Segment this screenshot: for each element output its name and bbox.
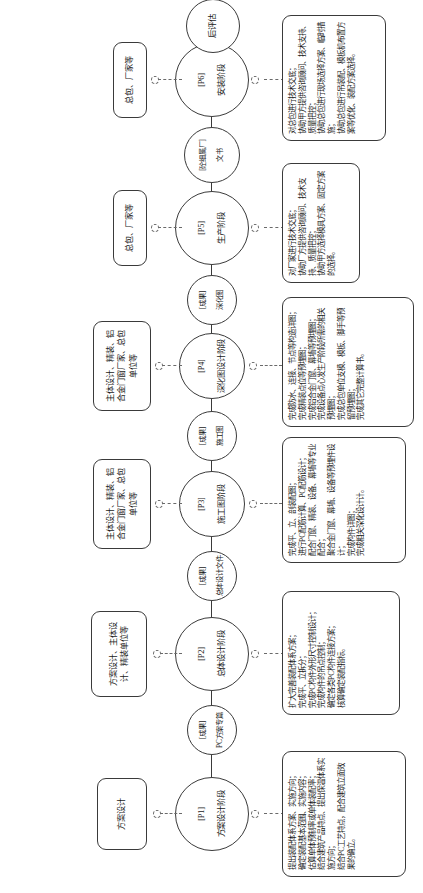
- lead-p4-tasks: [260, 365, 282, 366]
- phase-node-p5[interactable]: [P5] 生产阶段: [175, 191, 249, 265]
- task-item: 确定各类PC构件连接方案；: [327, 598, 337, 708]
- participants-text-p1: 方案设计: [116, 798, 127, 830]
- task-item: 结合建筑产品特点、提出保温体系实施方向；: [317, 758, 337, 870]
- task-item: 协助总包进行吊装配、模板机布置方案等优化、装配方案选择。: [337, 22, 357, 134]
- task-item: 协助总包进行现场选择方案、临时措施；: [317, 22, 337, 134]
- diagram-stage: [P1] 方案设计阶段 [成果] PC方案专篇 方案设计 提出装配体系方案、实施…: [0, 0, 423, 893]
- deliverable-tag-p3: [成果]: [199, 426, 208, 446]
- task-item: 聚合金门窗、幕墙、设备等预埋件设计；: [327, 444, 347, 556]
- task-item: 核算确定装配指标。: [337, 598, 347, 708]
- deliverable-node-p5[interactable]: [砼细属厂] 文书: [184, 127, 240, 183]
- lead-p6-tasks: [264, 79, 284, 80]
- lead-p3-participants: [162, 503, 182, 504]
- participants-text-p2: 方案设计、主体设计、精装单位等: [108, 617, 130, 691]
- deliverable-node-p1[interactable]: [成果] PC方案专篇: [187, 705, 237, 755]
- task-item: 扩大完善装配体系方案；: [288, 598, 298, 708]
- lead-p4-participants: [162, 365, 182, 366]
- connector-d2-p3: [211, 537, 212, 551]
- deliverable-name-p2: 总体设计文件: [216, 556, 225, 597]
- lead-dot-p2-top: [153, 650, 161, 658]
- tasks-box-p4: 完成防水、连接、节点等构造详图； 完成精装点位等预埋图； 完成铝合金门窗、幕墙等…: [282, 297, 414, 427]
- connector-d5-p6: [211, 117, 212, 127]
- deliverable-node-p2[interactable]: [成果] 总体设计文件: [187, 551, 237, 601]
- task-item: 完成平、立拆分；: [298, 598, 308, 708]
- task-item: 提出装配体系方案、实施方向；: [288, 758, 298, 870]
- task-item: 完成设备点心发生产阶段所需的相关预埋图；: [317, 304, 337, 420]
- lead-p2-tasks: [264, 653, 284, 654]
- tasks-box-p3: 完成平、立、剖装配图； 进行PC配筋计算、PC配筋设计； 配合门窗、精装、设备、…: [282, 437, 406, 563]
- lead-dot-p5-bottom: [251, 224, 259, 232]
- lead-p2-participants: [160, 653, 182, 654]
- participants-box-p5: 总包、厂家等: [113, 190, 147, 266]
- tasks-box-p2: 扩大完善装配体系方案； 完成平、立拆分； 完成PC构件外形尺寸控制设计； 完成构…: [282, 591, 400, 715]
- connector-p1-p2: [211, 755, 212, 777]
- participants-box-p3: 主体设计、精装、铝合金门窗厂家、总包单位等: [93, 459, 151, 549]
- deliverable-tag-p2: [成果]: [199, 556, 208, 597]
- lead-p1-participants: [160, 813, 182, 814]
- phase-name-p5: 生产阶段: [217, 212, 227, 243]
- task-item: 估算单体预制率或单体装配率；: [308, 758, 318, 870]
- task-item: 完成总包单位支模、模板、脚手等预留预埋图；: [337, 304, 357, 420]
- phase-node-p6[interactable]: [P6] 安装阶段: [175, 43, 249, 117]
- participants-text-p5: 总包、厂家等: [124, 204, 135, 252]
- phase-code-p1: [P1]: [197, 791, 207, 838]
- deliverable-tag-p4: [成果]: [199, 290, 208, 310]
- phase-code-p4: [P4]: [197, 339, 207, 394]
- lead-dot-p3-top: [155, 500, 163, 508]
- task-item: 完成平、立、剖装配图；: [288, 444, 298, 556]
- lead-p3-tasks: [260, 503, 282, 504]
- task-item: 完成PC构件外形尺寸控制设计；: [308, 598, 318, 708]
- task-item: 完成相关深化设计计。: [356, 444, 366, 556]
- task-item: 完成防水、连接、节点等构造详图；: [288, 304, 298, 420]
- lead-dot-p4-top: [155, 362, 163, 370]
- phase-node-p3[interactable]: [P3] 施工图阶段: [179, 471, 245, 537]
- task-item: 完成其它完整计算书。: [356, 304, 366, 420]
- participants-box-p2: 方案设计、主体设计、精装单位等: [91, 611, 147, 697]
- lead-dot-p3-bottom: [249, 500, 257, 508]
- phase-name-p4: 深化图设计阶段: [217, 339, 227, 394]
- deliverable-tag-p5: [砼细属厂]: [199, 139, 208, 171]
- task-item: 确定装配基本范围、实施内容；: [298, 758, 308, 870]
- phase-name-p6: 安装阶段: [217, 64, 227, 95]
- lead-dot-p1-top: [153, 810, 161, 818]
- task-item: 结合PC工艺特点，配合建筑立面效果的确立。: [337, 758, 357, 870]
- lead-dot-p6-bottom: [251, 76, 259, 84]
- task-item: 完成铝合金门窗、幕墙等预埋图；: [308, 304, 318, 420]
- phase-code-p3: [P3]: [197, 485, 207, 524]
- tasks-box-p5: 对厂家进行技术交底； 协助厂方提供咨询顾问、技术支持、质量把控； 协助甲方选择模…: [282, 163, 360, 283]
- phase-name-p2: 总体设计阶段: [217, 631, 227, 678]
- connector-p2-d2: [211, 601, 212, 617]
- task-item: 协助厂方提供咨询顾问、技术支持、质量把控；: [298, 170, 318, 276]
- connector-d3-p4: [211, 399, 212, 411]
- participants-box-p6: 总包、厂家等: [113, 42, 147, 118]
- task-item: 完成精装点位等预埋图；: [298, 304, 308, 420]
- connector-d4-p5: [211, 265, 212, 275]
- deliverable-name-p3: 施工图: [216, 426, 225, 446]
- task-item: 配合门窗、精装、设备、幕墙等专业配合；: [308, 444, 328, 556]
- lead-dot-p6-top: [151, 76, 159, 84]
- post-evaluation-node[interactable]: 后评估: [186, 0, 240, 53]
- task-item: 完成构件详图；: [347, 444, 357, 556]
- lead-dot-p4-bottom: [249, 362, 257, 370]
- task-item: 协助甲方提供咨询顾问、技术支持、质量把控；: [298, 22, 318, 134]
- post-evaluation-label: 后评估: [208, 14, 218, 37]
- phase-code-p5: [P5]: [197, 212, 207, 243]
- connector-p5-d5: [211, 183, 212, 191]
- deliverable-node-p3[interactable]: [成果] 施工图: [187, 411, 237, 461]
- phase-node-p4[interactable]: [P4] 深化图设计阶段: [179, 333, 245, 399]
- connector-p3-d3: [211, 461, 212, 471]
- phase-node-p2[interactable]: [P2] 总体设计阶段: [175, 617, 249, 691]
- deliverable-tag-p1: [成果]: [199, 712, 208, 748]
- participants-text-p4: 主体设计、精装、铝合金门窗厂家、总包单位等: [105, 327, 138, 405]
- connector-d1-p2: [211, 691, 212, 705]
- phase-node-p1[interactable]: [P1] 方案设计阶段: [175, 777, 249, 851]
- tasks-box-p1: 提出装配体系方案、实施方向； 确定装配基本范围、实施内容； 估算单体预制率或单体…: [282, 751, 406, 877]
- task-item: 进行PC配筋计算、PC配筋设计；: [298, 444, 308, 556]
- phase-name-p1: 方案设计阶段: [217, 791, 227, 838]
- task-item: 完成构件的吊点控制；: [317, 598, 327, 708]
- phase-name-p3: 施工图阶段: [217, 485, 227, 524]
- deliverable-node-p4[interactable]: [成果] 深化图: [187, 275, 237, 325]
- deliverable-name-p1: PC方案专篇: [216, 712, 225, 748]
- lead-p6-participants: [158, 79, 182, 80]
- deliverable-name-p5: 文书: [216, 139, 225, 171]
